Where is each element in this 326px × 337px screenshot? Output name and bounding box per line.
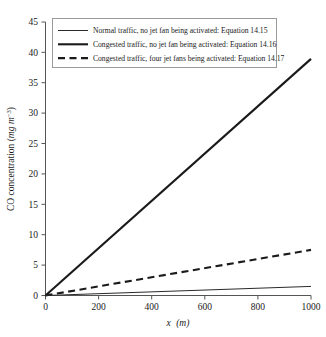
y-axis-ticks — [42, 22, 46, 296]
x-tick-label: 600 — [198, 302, 213, 312]
legend-label: Congested traffic, no jet fan being acti… — [93, 40, 277, 49]
x-tick-label: 0 — [43, 302, 48, 312]
series-line-congested-four-fans — [46, 250, 312, 296]
svg-text:CO concentration (mgm−3): CO concentration (mgm−3) — [5, 107, 17, 211]
y-tick-label: 25 — [29, 139, 39, 149]
chart-legend: Normal traffic, no jet fan being activat… — [53, 19, 285, 68]
y-tick-label: 40 — [29, 48, 39, 58]
y-tick-label: 10 — [29, 230, 39, 240]
y-tick-label: 30 — [29, 108, 39, 118]
x-axis-title-var: x — [166, 318, 172, 328]
x-axis-title: x (m) — [166, 318, 190, 329]
x-tick-label: 800 — [251, 302, 266, 312]
y-axis-title-unit-mass: mg — [6, 126, 16, 138]
svg-text:x (m): x (m) — [166, 318, 190, 329]
y-axis-title-close: ) — [6, 107, 17, 110]
y-tick-label: 0 — [33, 291, 38, 301]
y-tick-label: 45 — [29, 17, 39, 27]
y-tick-label: 5 — [33, 260, 38, 270]
x-axis-title-unit: (m) — [176, 318, 189, 329]
y-axis-tick-labels: 0 5 10 15 20 25 30 35 40 45 — [29, 17, 39, 301]
y-tick-label: 20 — [29, 169, 39, 179]
x-tick-label: 1000 — [302, 302, 321, 312]
series-line-congested-no-fan — [46, 59, 312, 296]
y-axis-title: CO concentration (mgm−3) — [5, 107, 17, 211]
x-tick-label: 200 — [91, 302, 106, 312]
x-axis-ticks — [46, 296, 312, 300]
legend-label: Congested traffic, four jet fans being a… — [93, 54, 285, 63]
y-tick-label: 15 — [29, 200, 39, 210]
chart-canvas: 0 5 10 15 20 25 30 35 40 45 0 200 400 60… — [0, 0, 326, 337]
legend-label: Normal traffic, no jet fan being activat… — [93, 26, 268, 35]
chart-figure: 0 5 10 15 20 25 30 35 40 45 0 200 400 60… — [0, 0, 326, 337]
y-tick-label: 35 — [29, 78, 39, 88]
y-axis-title-main: CO concentration ( — [6, 138, 17, 211]
x-tick-label: 400 — [145, 302, 160, 312]
x-axis-tick-labels: 0 200 400 600 800 1000 — [43, 302, 321, 312]
